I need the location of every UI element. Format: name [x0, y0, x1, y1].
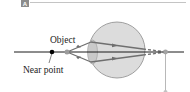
image-drop-end — [164, 90, 168, 92]
image-point — [163, 50, 168, 55]
panel-label: A — [23, 1, 28, 7]
near-point-label: Near point — [23, 65, 64, 75]
near-point-leader — [49, 53, 52, 63]
farsighted-eye-diagram: A Object Near point — [0, 0, 190, 92]
object-point — [65, 50, 70, 55]
near-point-marker — [50, 50, 55, 55]
object-label: Object — [50, 35, 76, 45]
